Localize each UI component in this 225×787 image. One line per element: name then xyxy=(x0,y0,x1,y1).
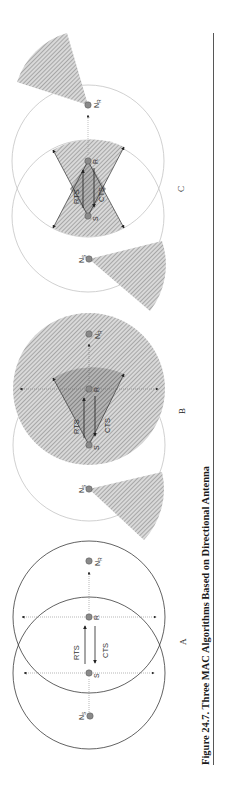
panel-a: NR R S NS RTS CTS A xyxy=(13,541,188,749)
panel-label-b: B xyxy=(177,408,187,414)
rts-label: RTS xyxy=(72,645,81,660)
rts-label: RTS xyxy=(72,189,81,204)
node-s-label: S xyxy=(93,673,100,678)
panel-label-a: A xyxy=(178,638,188,645)
node-s xyxy=(86,670,92,676)
node-ns xyxy=(86,486,92,492)
node-nr xyxy=(86,558,92,564)
node-ns xyxy=(87,713,93,719)
beam-wedge-ns xyxy=(89,472,164,540)
node-r-label: R xyxy=(92,159,99,164)
node-ns-label: NS xyxy=(78,254,87,263)
node-r xyxy=(86,386,92,392)
node-ns-label: NS xyxy=(78,484,87,493)
node-r xyxy=(86,614,92,620)
cts-label: CTS xyxy=(103,418,112,433)
rts-label: RTS xyxy=(72,419,81,434)
figure-canvas: NR R S NS RTS CTS C NR R S xyxy=(0,0,225,787)
node-r-label: R xyxy=(93,387,100,392)
node-ns-label: NS xyxy=(78,711,87,720)
node-s-label: S xyxy=(93,445,100,450)
node-r xyxy=(85,158,91,164)
figure-caption: Figure 24.7. Three MAC Algorithms Based … xyxy=(200,465,211,765)
node-nr-label: NR xyxy=(94,557,103,566)
node-s-label: S xyxy=(92,216,99,221)
panel-b: NR R S NS RTS CTS B xyxy=(13,241,187,540)
node-s xyxy=(85,213,91,219)
cts-label: CTS xyxy=(101,643,110,658)
node-nr-label: NR xyxy=(93,99,102,108)
node-r-label: R xyxy=(93,615,100,620)
panel-label-c: C xyxy=(176,186,186,192)
node-s xyxy=(86,442,92,448)
node-nr xyxy=(86,331,92,337)
cts-label: CTS xyxy=(97,187,106,202)
node-nr xyxy=(85,102,91,108)
